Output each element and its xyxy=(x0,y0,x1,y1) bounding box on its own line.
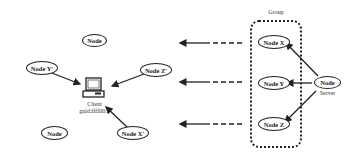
node-x[interactable]: Node X xyxy=(258,35,290,49)
group-label: Group xyxy=(255,9,297,16)
client-label: Client guid:ffff00... xyxy=(72,101,117,115)
node-x-prime[interactable]: Node X' xyxy=(117,126,149,140)
arrow-node-y-prime-to-client xyxy=(52,73,80,84)
computer-icon xyxy=(83,78,104,97)
arrow-node-z-prime-to-client xyxy=(112,74,144,86)
node-bottom[interactable]: Node xyxy=(41,126,68,140)
node-z-prime[interactable]: Node Z' xyxy=(140,63,172,77)
node-y-prime[interactable]: Node Y' xyxy=(26,61,58,75)
node-top[interactable]: Node xyxy=(82,34,107,47)
node-server[interactable]: Node xyxy=(314,76,341,89)
client-name: Client xyxy=(72,101,117,108)
node-z[interactable]: Node Z xyxy=(258,117,290,131)
client-guid: guid:ffff00... xyxy=(72,108,117,115)
server-label: Server xyxy=(312,90,343,97)
node-y[interactable]: Node Y xyxy=(258,76,290,90)
